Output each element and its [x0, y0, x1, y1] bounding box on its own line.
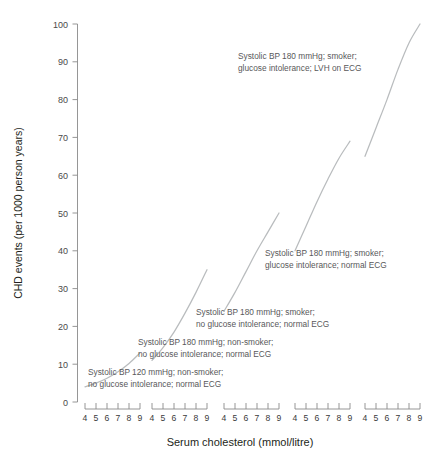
x-tick-label: 5: [233, 413, 238, 423]
y-tick-label: 10: [58, 360, 68, 370]
y-tick-label: 60: [58, 171, 68, 181]
y-tick-label: 40: [58, 246, 68, 256]
x-tick-label: 4: [293, 413, 298, 423]
x-tick-label: 6: [172, 413, 177, 423]
x-axis-tick-labels: 4 5 6 7 8 9 4 5 6 7 8 9 4 5 6 7 8 9 4 5 …: [83, 413, 423, 423]
chd-risk-chart: 100 90 80 70 60 50 40 30 20 10 0 CHD eve…: [0, 0, 429, 461]
x-tick-label: 5: [304, 413, 309, 423]
x-tick-label: 7: [255, 413, 260, 423]
y-tick-label: 20: [58, 322, 68, 332]
annotation-lvh-ecg-line1: Systolic BP 180 mmHg; smoker;: [238, 51, 357, 61]
x-axis-panel: [85, 403, 140, 409]
x-tick-label: 4: [83, 413, 88, 423]
x-tick-label: 8: [194, 413, 199, 423]
x-axis-panel: [295, 403, 350, 409]
x-tick-label: 8: [127, 413, 132, 423]
x-tick-label: 4: [363, 413, 368, 423]
x-tick-label: 7: [116, 413, 121, 423]
annotation-smoker-normal-ecg-line2: no glucose intolerance; normal ECG: [196, 319, 329, 329]
y-tick-label: 100: [53, 20, 68, 30]
y-axis-tick-labels: 100 90 80 70 60 50 40 30 20 10 0: [53, 20, 68, 408]
x-tick-label: 8: [337, 413, 342, 423]
x-tick-label: 9: [138, 413, 143, 423]
y-tick-label: 80: [58, 95, 68, 105]
y-tick-label: 30: [58, 284, 68, 294]
chart-canvas: 100 90 80 70 60 50 40 30 20 10 0 CHD eve…: [0, 0, 429, 461]
risk-curve: Systolic BP 180 mmHg; smoker; glucose in…: [365, 24, 420, 156]
annotation-glucose-normal-ecg-line1: Systolic BP 180 mmHg; smoker;: [265, 248, 384, 258]
x-axis-panel: [152, 403, 207, 409]
y-tick-label: 0: [63, 398, 68, 408]
annotation-bp180-nonsmoker-line1: Systolic BP 180 mmHg; non-smoker;: [138, 337, 273, 347]
x-tick-label: 5: [161, 413, 166, 423]
x-tick-label: 7: [326, 413, 331, 423]
x-axis-panel: [365, 403, 420, 409]
x-tick-label: 6: [105, 413, 110, 423]
x-tick-label: 5: [94, 413, 99, 423]
y-axis-ticks: [73, 24, 78, 402]
x-tick-label: 6: [385, 413, 390, 423]
x-tick-label: 4: [222, 413, 227, 423]
annotation-glucose-normal-ecg-line2: glucose intolerance; normal ECG: [265, 260, 387, 270]
x-axis-panel: [224, 403, 279, 409]
annotation-bp180-nonsmoker-line2: no glucose intolerance; normal ECG: [138, 349, 271, 359]
x-tick-label: 6: [244, 413, 249, 423]
x-tick-label: 9: [348, 413, 353, 423]
x-axis-panels: [85, 403, 420, 409]
x-tick-label: 6: [315, 413, 320, 423]
x-tick-label: 9: [277, 413, 282, 423]
x-tick-label: 5: [374, 413, 379, 423]
annotation-smoker-normal-ecg-line1: Systolic BP 180 mmHg; smoker;: [196, 307, 315, 317]
x-tick-label: 9: [205, 413, 210, 423]
x-axis-title: Serum cholesterol (mmol/litre): [167, 436, 314, 448]
x-tick-label: 4: [150, 413, 155, 423]
x-tick-label: 7: [396, 413, 401, 423]
x-tick-label: 9: [418, 413, 423, 423]
risk-curves: Systolic BP 120 mmHg; non-smoker; no glu…: [85, 24, 420, 387]
x-tick-label: 7: [183, 413, 188, 423]
risk-curve: Systolic BP 180 mmHg; smoker; glucose in…: [295, 141, 350, 251]
x-tick-label: 8: [407, 413, 412, 423]
annotation-bp120-nonsmoker-line1: Systolic BP 120 mmHg; non-smoker;: [88, 367, 223, 377]
chart-annotations: Systolic BP 180 mmHg; smoker; glucose in…: [88, 51, 387, 389]
y-axis-title: CHD events (per 1000 person years): [12, 127, 24, 299]
y-tick-label: 50: [58, 209, 68, 219]
y-tick-label: 90: [58, 57, 68, 67]
annotation-bp120-nonsmoker-line2: no glucose intolerance; normal ECG: [88, 379, 221, 389]
y-tick-label: 70: [58, 133, 68, 143]
x-tick-label: 8: [266, 413, 271, 423]
annotation-lvh-ecg-line2: glucose intolerance; LVH on ECG: [238, 63, 361, 73]
